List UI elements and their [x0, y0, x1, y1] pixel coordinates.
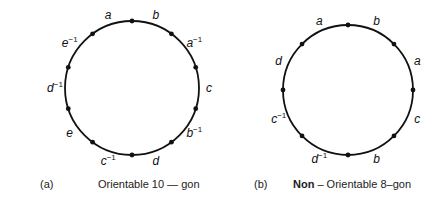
vertex-dot — [346, 23, 351, 28]
polygon-boundary-circle — [65, 21, 199, 155]
vertex-dot — [66, 65, 71, 70]
orientable-10-gon: aba−1cb−1dc−1ed−1e−1 — [47, 8, 212, 168]
edge-label: a — [316, 14, 323, 28]
edge-label: c — [206, 81, 212, 95]
vertex-dot — [392, 134, 397, 139]
edge-label: c−1 — [271, 111, 287, 126]
vertex-dot — [130, 153, 135, 158]
edge-label: d−1 — [47, 80, 63, 95]
vertex-dot — [300, 134, 305, 139]
edge-label: a — [414, 54, 421, 68]
edge-label: e — [66, 126, 73, 140]
edge-label: b−1 — [186, 125, 202, 140]
inverse-exponent: −1 — [68, 35, 78, 44]
vertex-dot — [411, 88, 416, 93]
edge-label: d−1 — [311, 151, 327, 166]
inverse-exponent: −1 — [193, 35, 203, 44]
edge-label: d — [275, 54, 282, 68]
polygon-diagrams: aba−1cb−1dc−1ed−1e−1 abacbd−1c−1d — [0, 0, 435, 208]
vertex-dot — [169, 31, 174, 36]
non-orientable-8-gon: abacbd−1c−1d — [271, 14, 421, 167]
figure-b-caption: Non – Orientable 8–gon — [293, 178, 411, 190]
vertex-dot — [281, 88, 286, 93]
vertex-dot — [346, 153, 351, 158]
figure-b-caption-rest: – Orientable 8–gon — [314, 178, 411, 190]
vertex-dot — [193, 65, 198, 70]
vertex-dot — [90, 140, 95, 145]
edge-label: c−1 — [101, 153, 117, 168]
figure-b-tag: (b) — [254, 178, 267, 190]
inverse-exponent: −1 — [318, 151, 328, 160]
edge-label: b — [373, 14, 380, 28]
edge-label: e−1 — [62, 35, 78, 50]
vertex-dot — [66, 106, 71, 111]
edge-label: c — [414, 112, 420, 126]
vertex-dot — [300, 42, 305, 47]
vertex-dot — [130, 19, 135, 24]
figure-a-tag: (a) — [40, 178, 53, 190]
vertex-dot — [392, 42, 397, 47]
inverse-exponent: −1 — [107, 153, 117, 162]
inverse-exponent: −1 — [193, 125, 203, 134]
edge-label: a — [105, 8, 112, 22]
edge-label: b — [152, 8, 159, 22]
vertex-dot — [90, 31, 95, 36]
figure-b-caption-bold: Non — [293, 178, 314, 190]
edge-label: a−1 — [186, 35, 202, 50]
inverse-exponent: −1 — [277, 111, 287, 120]
vertex-dot — [169, 140, 174, 145]
inverse-exponent: −1 — [54, 80, 64, 89]
figure-a-caption: Orientable 10 — gon — [98, 178, 200, 190]
edge-label: d — [152, 154, 159, 168]
vertex-dot — [193, 106, 198, 111]
edge-label: b — [373, 152, 380, 166]
